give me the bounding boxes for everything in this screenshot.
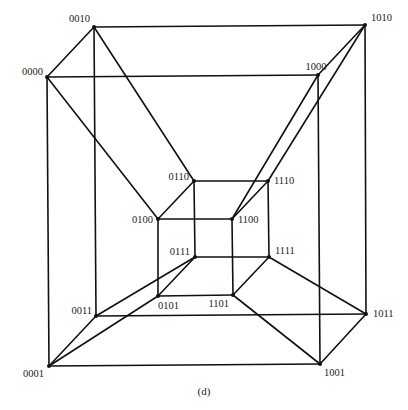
node-label-0100: 0100 xyxy=(132,214,153,225)
edge-0000-1000 xyxy=(47,75,318,77)
node-0110 xyxy=(192,179,196,183)
node-0101 xyxy=(156,294,160,298)
node-label-0101: 0101 xyxy=(158,300,179,311)
node-1100 xyxy=(230,217,234,221)
edge-1000-1100 xyxy=(232,75,318,219)
edge-0010-0110 xyxy=(94,27,194,181)
node-1000 xyxy=(316,73,320,77)
edge-1010-1110 xyxy=(268,25,365,181)
node-1111 xyxy=(267,255,271,259)
node-label-1010: 1010 xyxy=(371,12,392,23)
node-0000 xyxy=(45,75,49,79)
node-label-0111: 0111 xyxy=(170,246,190,257)
edge-0010-1010 xyxy=(94,25,365,27)
node-label-1111: 1111 xyxy=(275,245,295,256)
node-label-1001: 1001 xyxy=(324,367,345,378)
node-1001 xyxy=(318,362,322,366)
edge-1010-1011 xyxy=(365,25,366,314)
edge-1011-1001 xyxy=(320,314,366,364)
edge-0101-1101 xyxy=(158,295,233,296)
hypercube-diagram: 0000000100100011010001010110011110001001… xyxy=(0,0,408,410)
node-label-1101: 1101 xyxy=(208,298,229,309)
edge-1000-1001 xyxy=(318,75,320,364)
figure-caption: (d) xyxy=(198,385,211,398)
edge-0011-1011 xyxy=(96,314,366,316)
edge-1101-1001 xyxy=(233,295,320,364)
node-label-1100: 1100 xyxy=(238,214,259,225)
node-0111 xyxy=(193,255,197,259)
node-0011 xyxy=(94,314,98,318)
labels-group: 0000000100100011010001010110011110001001… xyxy=(22,12,394,379)
edge-1111-1101 xyxy=(233,257,269,295)
node-label-1011: 1011 xyxy=(373,308,394,319)
edge-0111-0011 xyxy=(96,257,195,316)
node-label-0000: 0000 xyxy=(22,66,43,77)
edge-0010-0011 xyxy=(94,27,96,316)
node-label-0010: 0010 xyxy=(69,13,90,24)
node-label-1000: 1000 xyxy=(306,61,327,72)
edge-0001-1001 xyxy=(49,364,320,366)
node-0001 xyxy=(47,364,51,368)
node-0010 xyxy=(92,25,96,29)
edge-0000-0100 xyxy=(47,77,158,219)
edge-0000-0001 xyxy=(47,77,49,366)
node-1101 xyxy=(231,293,235,297)
node-1010 xyxy=(363,23,367,27)
node-label-0011: 0011 xyxy=(71,305,92,316)
edge-0101-0001 xyxy=(49,296,158,366)
edge-0110-0100 xyxy=(158,181,194,219)
node-1110 xyxy=(266,179,270,183)
node-0100 xyxy=(156,217,160,221)
edge-1110-1111 xyxy=(268,181,269,257)
edge-0000-0010 xyxy=(47,27,94,77)
node-label-0110: 0110 xyxy=(168,171,189,182)
edge-1111-1011 xyxy=(269,257,366,314)
node-1011 xyxy=(364,312,368,316)
node-label-1110: 1110 xyxy=(274,175,294,186)
node-label-0001: 0001 xyxy=(23,368,44,379)
